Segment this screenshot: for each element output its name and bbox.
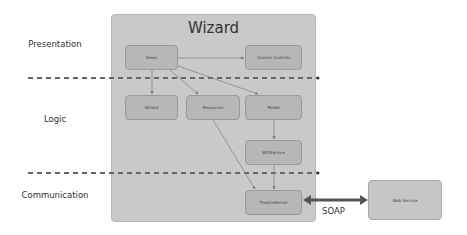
box-views: Views [125, 45, 178, 70]
soap-label: SOAP [322, 206, 345, 216]
box-resources: Resources [186, 95, 240, 120]
box-custom-controls: Custom Controls [245, 45, 302, 70]
box-wizard: Wizard [125, 95, 178, 120]
box-wifi-service: WifiService [245, 140, 302, 165]
box-theatre-server: TheatreServer [245, 190, 302, 215]
box-model: Model [245, 95, 302, 120]
box-web-service: Web Service [368, 180, 442, 220]
